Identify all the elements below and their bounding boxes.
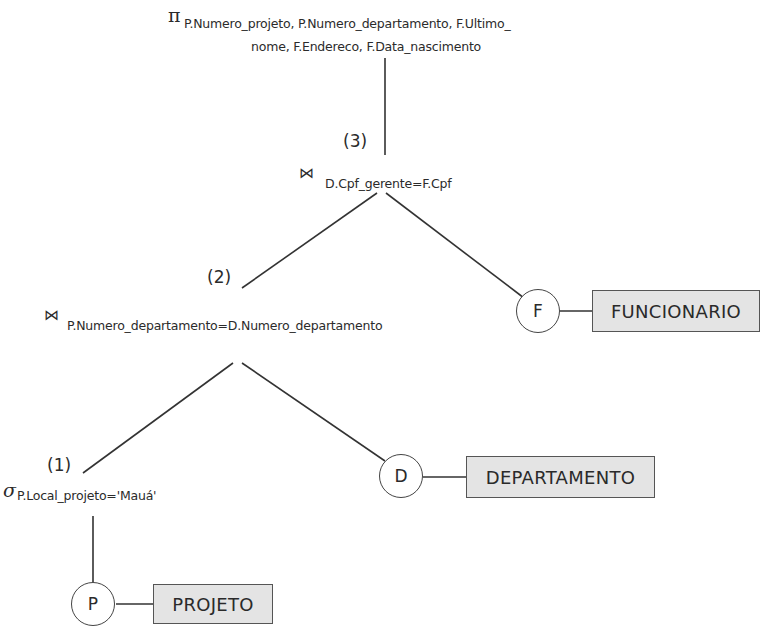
join-bowtie-icon: ⋈ (44, 306, 59, 324)
relation-departamento: DEPARTAMENTO (466, 456, 655, 498)
alias-label: P (88, 594, 98, 614)
edge-join3-F (386, 193, 524, 298)
join-bowtie-icon: ⋈ (299, 164, 314, 182)
relation-label: FUNCIONARIO (611, 301, 741, 322)
alias-node-P: P (71, 582, 115, 626)
step-label-2: (2) (207, 267, 231, 287)
alias-label: F (533, 301, 543, 321)
projection-attributes-line2: nome, F.Endereco, F.Data_nascimento (251, 39, 481, 54)
alias-node-F: F (516, 289, 560, 333)
relation-label: DEPARTAMENTO (486, 467, 636, 488)
relation-label: PROJETO (172, 594, 253, 615)
alias-label: D (394, 466, 407, 486)
projection-pi-icon: π (168, 4, 181, 26)
relation-funcionario: FUNCIONARIO (592, 290, 760, 332)
alias-node-D: D (379, 454, 423, 498)
edge-join3-join2 (242, 193, 377, 288)
select1-condition: P.Local_projeto='Mauá' (17, 488, 156, 503)
projection-attributes-line1: P.Numero_projeto, P.Numero_departamento,… (184, 16, 510, 31)
selection-sigma-icon: σ (3, 479, 16, 501)
edge-join2-select (83, 363, 233, 473)
join2-condition: P.Numero_departamento=D.Numero_departame… (67, 318, 382, 333)
edge-join2-D (242, 363, 385, 461)
relation-projeto: PROJETO (153, 584, 273, 624)
step-label-1: (1) (47, 455, 71, 475)
join3-condition: D.Cpf_gerente=F.Cpf (325, 176, 452, 191)
step-label-3: (3) (343, 131, 367, 151)
